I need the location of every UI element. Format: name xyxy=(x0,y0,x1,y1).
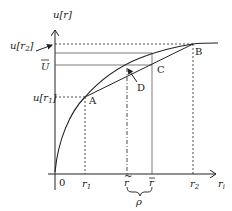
u-r2-label: u[r2] xyxy=(10,40,34,53)
y-axis-label: u[r] xyxy=(53,9,72,20)
r1-label: r1 xyxy=(82,178,91,191)
rho-label: ρ xyxy=(135,196,142,207)
diagram-canvas: u[r] u[r2] U u[r1] A B C D 0 r1 r ~ r r2… xyxy=(0,0,232,211)
u-r1-label: u[r1] xyxy=(33,92,57,105)
utility-curve xyxy=(55,43,218,172)
r-bar-label: r xyxy=(149,177,155,188)
rho-brace-icon xyxy=(127,187,152,196)
point-C-label: C xyxy=(157,64,165,75)
tilde-mark: ~ xyxy=(124,170,132,181)
point-B-label: B xyxy=(195,46,202,57)
point-D-label: D xyxy=(137,82,145,93)
point-A-label: A xyxy=(88,95,97,106)
r2-label: r2 xyxy=(190,178,200,191)
u-bar-label: U xyxy=(41,61,50,72)
u-r2-pointer-arrow xyxy=(36,45,52,51)
x-axis-label: ri xyxy=(218,178,225,191)
utility-diagram: u[r] u[r2] U u[r1] A B C D 0 r1 r ~ r r2… xyxy=(0,0,232,211)
origin-label: 0 xyxy=(59,177,65,188)
